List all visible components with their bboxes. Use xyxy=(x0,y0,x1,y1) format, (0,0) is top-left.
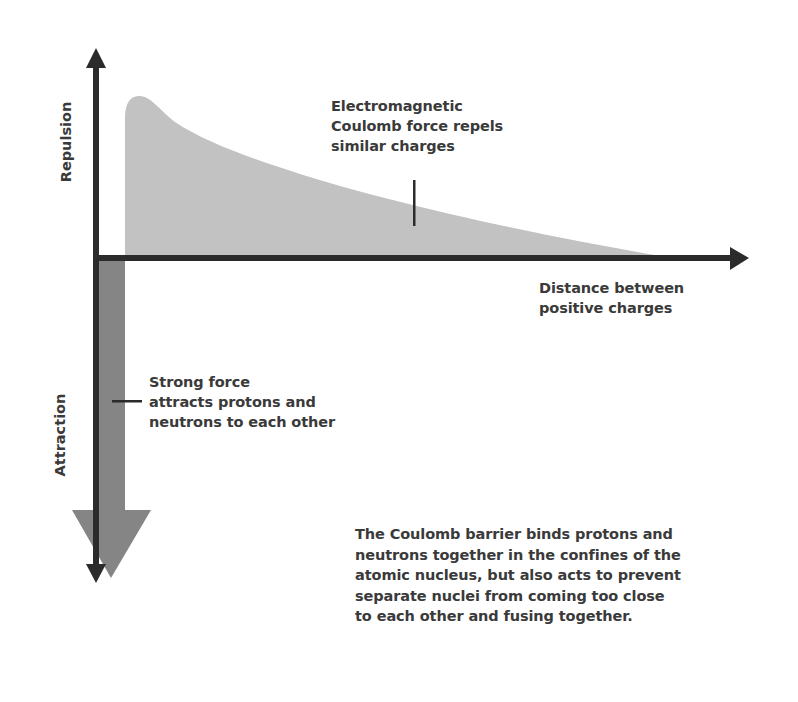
strong-force-annotation: Strong force attracts protons and neutro… xyxy=(149,372,335,432)
strong-force-annotation-line: neutrons to each other xyxy=(149,412,335,432)
x-axis-label-line: Distance between xyxy=(539,278,684,298)
x-axis-label: Distance between positive charges xyxy=(539,278,684,318)
strong-force-arrowhead xyxy=(72,510,151,578)
coulomb-force-annotation: Electromagnetic Coulomb force repels sim… xyxy=(331,96,503,156)
caption-line: separate nuclei from coming too close xyxy=(355,586,681,607)
strong-force-bar xyxy=(99,258,125,510)
strong-force-annotation-line: Strong force xyxy=(149,372,335,392)
strong-force-leader-line xyxy=(112,400,142,403)
y-axis-down-arrow-icon xyxy=(86,564,106,583)
coulomb-leader-line xyxy=(413,180,416,226)
x-axis-right-arrow-icon xyxy=(730,247,749,270)
caption-line: The Coulomb barrier binds protons and xyxy=(355,524,681,545)
strong-force-annotation-line: attracts protons and xyxy=(149,392,335,412)
y-axis-attraction-label: Attraction xyxy=(51,383,69,487)
caption-line: neutrons together in the confines of the xyxy=(355,545,681,566)
coulomb-barrier-caption: The Coulomb barrier binds protons and ne… xyxy=(355,524,681,627)
caption-line: atomic nucleus, but also acts to prevent xyxy=(355,565,681,586)
y-axis-repulsion-label: Repulsion xyxy=(57,96,75,188)
caption-line: to each other and fusing together. xyxy=(355,606,681,627)
coulomb-annotation-line: Electromagnetic xyxy=(331,96,503,116)
coulomb-annotation-line: Coulomb force repels xyxy=(331,116,503,136)
coulomb-annotation-line: similar charges xyxy=(331,136,503,156)
x-axis-line xyxy=(93,255,733,261)
y-axis-up-arrow-icon xyxy=(86,48,106,68)
x-axis-label-line: positive charges xyxy=(539,298,684,318)
y-axis-line xyxy=(93,64,99,568)
